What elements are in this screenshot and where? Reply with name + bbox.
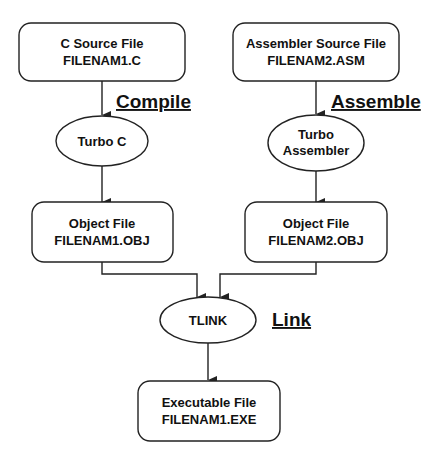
exe-filename: FILENAM1.EXE (162, 412, 257, 427)
tlink-label: TLINK (189, 313, 228, 328)
arrow-obj2-to-tlink (220, 262, 316, 297)
compile-step-label: Compile (116, 91, 191, 112)
turbo-asm-label-line1: Turbo (298, 127, 334, 142)
obj1-filename: FILENAM1.OBJ (54, 233, 149, 248)
build-flow-diagram: C Source File FILENAM1.C Assembler Sourc… (0, 0, 435, 460)
turbo-asm-label-line2: Assembler (283, 143, 349, 158)
c-source-title: C Source File (60, 36, 143, 51)
assemble-step-label: Assemble (331, 91, 421, 112)
obj2-filename: FILENAM2.OBJ (268, 233, 363, 248)
obj2-title: Object File (283, 216, 349, 231)
c-source-filename: FILENAM1.C (63, 53, 142, 68)
turbo-assembler-node: Turbo Assembler (268, 115, 364, 171)
obj1-title: Object File (69, 216, 135, 231)
object-file-1-node: Object File FILENAM1.OBJ (32, 202, 173, 262)
asm-source-file-node: Assembler Source File FILENAM2.ASM (233, 23, 399, 81)
object-file-2-node: Object File FILENAM2.OBJ (245, 202, 387, 262)
c-source-file-node: C Source File FILENAM1.C (19, 23, 185, 81)
arrow-obj1-to-tlink (102, 262, 197, 297)
exe-title: Executable File (162, 395, 257, 410)
link-step-label: Link (272, 309, 311, 330)
tlink-node: TLINK (160, 297, 256, 343)
asm-source-filename: FILENAM2.ASM (267, 53, 365, 68)
turbo-c-node: Turbo C (56, 116, 148, 166)
executable-file-node: Executable File FILENAM1.EXE (138, 381, 280, 441)
asm-source-title: Assembler Source File (246, 36, 386, 51)
turbo-c-label: Turbo C (78, 134, 127, 149)
